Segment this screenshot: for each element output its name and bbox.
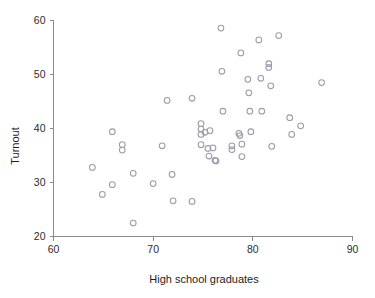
data-point bbox=[189, 199, 195, 205]
tick-layer bbox=[50, 21, 353, 241]
data-point bbox=[159, 143, 165, 149]
data-point bbox=[218, 25, 224, 31]
data-point bbox=[164, 98, 170, 104]
data-point bbox=[238, 50, 244, 56]
y-tick-label-50: 50 bbox=[34, 68, 46, 80]
data-point bbox=[198, 121, 204, 127]
data-point bbox=[258, 75, 264, 81]
data-point bbox=[287, 115, 293, 121]
data-point bbox=[269, 143, 275, 149]
data-point-layer bbox=[90, 25, 325, 226]
data-point bbox=[207, 128, 213, 134]
y-tick-label-60: 60 bbox=[34, 14, 46, 26]
data-point bbox=[246, 90, 252, 96]
data-point bbox=[109, 182, 115, 188]
y-tick-label-20: 20 bbox=[34, 230, 46, 242]
data-point bbox=[247, 108, 253, 114]
data-point bbox=[319, 80, 325, 86]
data-point bbox=[229, 147, 235, 153]
data-point bbox=[169, 172, 175, 178]
data-point bbox=[119, 142, 125, 148]
data-point bbox=[198, 142, 204, 148]
data-point bbox=[239, 154, 245, 160]
data-point bbox=[150, 181, 156, 187]
data-point bbox=[276, 33, 282, 39]
data-point bbox=[99, 192, 105, 198]
data-point bbox=[220, 108, 226, 114]
data-point bbox=[109, 129, 115, 135]
plot-canvas: 203040506060708090 Turnout High school g… bbox=[0, 0, 375, 298]
x-axis-title: High school graduates bbox=[149, 273, 259, 285]
x-tick-label-80: 80 bbox=[247, 243, 259, 255]
x-tick-label-90: 90 bbox=[347, 243, 359, 255]
data-point bbox=[245, 77, 251, 83]
y-tick-label-30: 30 bbox=[34, 176, 46, 188]
data-point bbox=[239, 141, 245, 147]
data-point bbox=[130, 170, 136, 176]
data-point bbox=[289, 132, 295, 138]
data-point bbox=[119, 147, 125, 153]
data-point bbox=[130, 220, 136, 226]
data-point bbox=[206, 153, 212, 159]
data-point bbox=[266, 65, 272, 71]
data-point bbox=[90, 165, 96, 171]
data-point bbox=[298, 123, 304, 129]
data-point bbox=[219, 68, 225, 74]
data-point bbox=[268, 83, 274, 89]
x-tick-label-70: 70 bbox=[147, 243, 159, 255]
data-point bbox=[189, 95, 195, 101]
x-tick-label-60: 60 bbox=[48, 243, 60, 255]
data-point bbox=[248, 129, 254, 135]
y-axis-title: Turnout bbox=[9, 127, 21, 165]
y-tick-label-40: 40 bbox=[34, 122, 46, 134]
axis-layer bbox=[54, 21, 353, 237]
data-point bbox=[259, 108, 265, 114]
data-point bbox=[256, 37, 262, 43]
tick-label-layer: 203040506060708090 bbox=[34, 14, 359, 254]
data-point bbox=[170, 198, 176, 204]
scatter-chart: 203040506060708090 Turnout High school g… bbox=[0, 0, 375, 298]
